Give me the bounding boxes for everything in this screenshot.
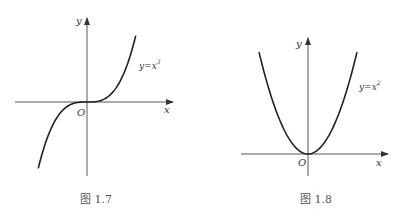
figure-caption: 图 1.8	[300, 193, 332, 206]
figure-caption: 图 1.7	[80, 193, 112, 206]
figures-canvas: y x O y=x3 图 1.7 y x O y=x2 图 1.8	[0, 0, 401, 216]
x-axis-label: x	[376, 157, 382, 168]
x-axis-label: x	[164, 104, 170, 115]
y-axis-label: y	[75, 15, 82, 26]
origin-label: O	[77, 107, 85, 118]
figure-cubic: y x O y=x3 图 1.7	[15, 15, 173, 206]
curve-label-exponent: 2	[376, 79, 381, 86]
figure-parabola: y x O y=x2 图 1.8	[241, 38, 388, 206]
curve-label: y=x3	[138, 58, 161, 71]
curve-label-base: y=x	[138, 61, 157, 71]
origin-label: O	[298, 157, 306, 168]
curve-label-exponent: 3	[157, 58, 161, 65]
curve-label-base: y=x	[358, 82, 377, 92]
y-axis-label: y	[295, 38, 302, 49]
curve-label: y=x2	[358, 79, 381, 92]
